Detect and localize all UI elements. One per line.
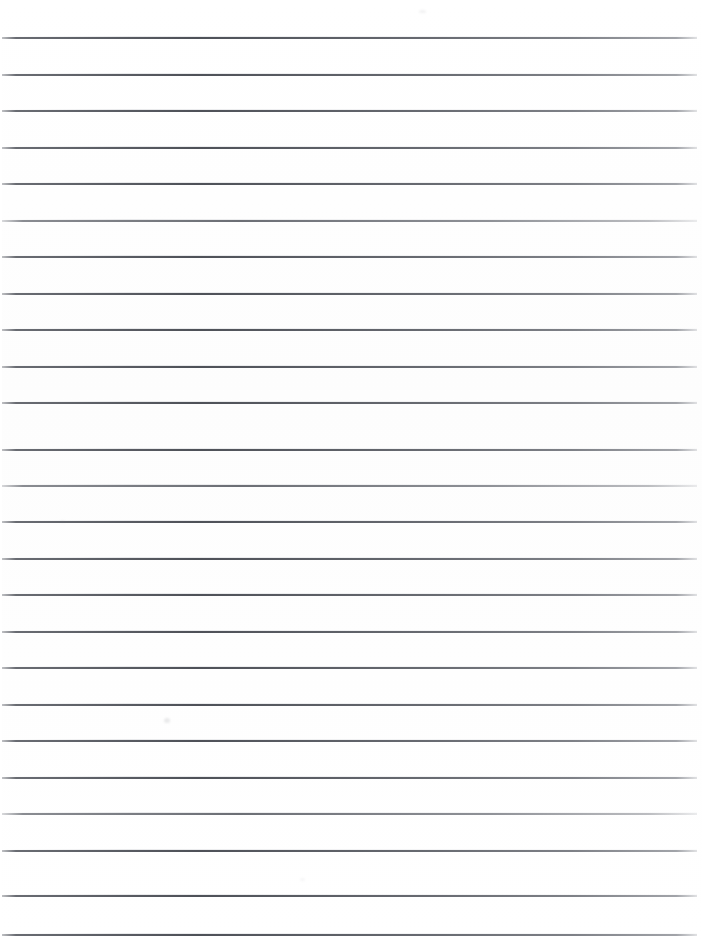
- lined-paper-page: [0, 0, 702, 942]
- speck-top-right: [419, 10, 426, 13]
- writing-area[interactable]: [2, 37, 697, 935]
